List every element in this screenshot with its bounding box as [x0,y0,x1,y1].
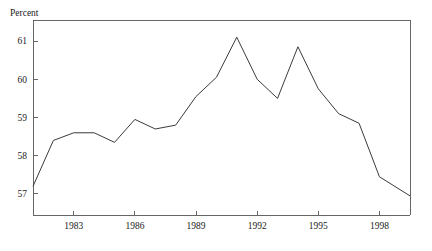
chart-background [0,0,432,251]
x-tick-label: 1992 [248,221,267,231]
y-tick-label: 57 [18,189,28,199]
x-tick-label: 1989 [187,221,206,231]
x-tick-label: 1983 [64,221,83,231]
x-tick-label: 1995 [309,221,328,231]
y-tick-label: 60 [18,75,28,85]
chart-container: 5758596061 198319861989199219951998 Perc… [0,0,432,251]
x-tick-label: 1986 [125,221,144,231]
y-axis-label: Percent [10,8,39,18]
y-tick-label: 61 [18,36,28,46]
y-tick-label: 59 [18,113,28,123]
x-tick-label: 1998 [370,221,389,231]
y-tick-label: 58 [18,151,28,161]
line-chart: 5758596061 198319861989199219951998 Perc… [0,0,432,251]
